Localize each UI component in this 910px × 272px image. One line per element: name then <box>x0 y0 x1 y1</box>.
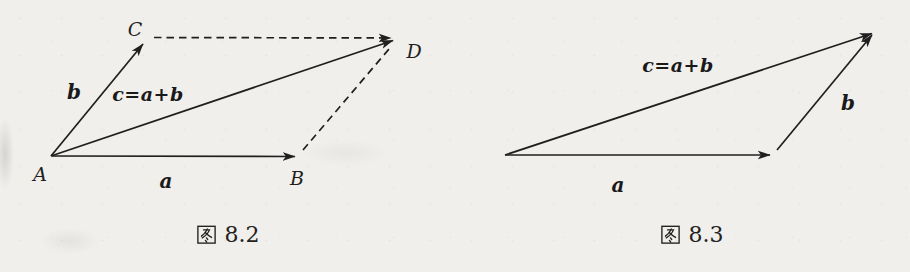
vector-b-label: b <box>841 91 855 115</box>
vector-a-label: a <box>160 169 173 193</box>
figure-number: 8.3 <box>689 222 724 247</box>
vector-sum-label: c=a+b <box>642 54 714 76</box>
tu-character-glyph <box>660 224 681 245</box>
vector-b-arrow <box>777 35 872 150</box>
figure-8-3-caption: 8.3 <box>455 219 910 249</box>
figure-8-2-caption: 8.2 <box>0 219 455 249</box>
vertex-label-C: C <box>128 18 143 40</box>
vector-sum-arrow <box>505 34 872 156</box>
vertex-label-A: A <box>31 163 47 185</box>
tu-character-glyph <box>196 224 217 245</box>
figure-number: 8.2 <box>225 222 260 247</box>
vector-sum-diagonal-arrow <box>51 41 393 157</box>
dashed-side-b-to-d <box>303 49 389 150</box>
vector-sum-label: c=a+b <box>112 83 184 105</box>
vertex-label-B: B <box>289 167 304 189</box>
textbook-vector-figures-panel: A B C D a b c=a+b a b c=a+b <box>0 0 910 272</box>
vector-a-label: a <box>612 173 625 197</box>
vector-a-arrow <box>52 156 295 157</box>
vector-b-label: b <box>67 80 81 104</box>
dashed-side-c-to-d <box>154 38 391 39</box>
vertex-label-D: D <box>405 40 421 62</box>
